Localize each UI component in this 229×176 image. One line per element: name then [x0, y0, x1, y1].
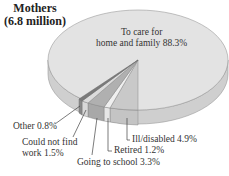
label-school: Going to school 3.3%	[77, 157, 160, 168]
label-home-line2: home and family 88.3%	[96, 38, 187, 49]
side-retired	[104, 107, 110, 122]
label-retired: Retired 1.2%	[114, 145, 164, 156]
side-ill	[110, 108, 138, 125]
label-work-line1: Could not find	[22, 137, 77, 148]
label-work-line2: work 1.5%	[22, 148, 77, 159]
label-work: Could not find work 1.5%	[22, 137, 77, 159]
side-work	[82, 101, 88, 117]
label-home: To care for home and family 88.3%	[96, 27, 187, 49]
label-home-line1: To care for	[96, 27, 187, 38]
side-other	[79, 99, 82, 115]
label-ill: Ill/disabled 4.9%	[132, 134, 197, 145]
label-other: Other 0.8%	[13, 121, 57, 132]
